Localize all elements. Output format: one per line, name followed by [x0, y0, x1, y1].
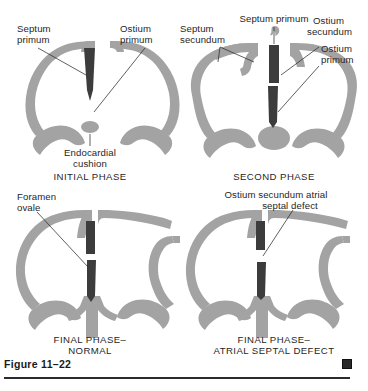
final-phase-defect-drawing: Ostium secundum atrial septal defect FIN… [180, 188, 368, 358]
panel-final-phase-atrial-septal-defect: Ostium secundum atrial septal defect FIN… [180, 188, 368, 358]
septum-primum-lower-shape [87, 260, 96, 302]
label-defect-line2: septal defect [262, 200, 318, 211]
caption-final-phase-defect-line1: FINAL PHASE– [238, 334, 311, 345]
caption-second-phase: SECOND PHASE [233, 171, 315, 182]
label-foramen-ovale-line2: ovale [17, 202, 40, 213]
footer-divider [4, 377, 350, 379]
atrial-roof-right [268, 210, 348, 229]
label-septum-primum-line2: primum [17, 34, 50, 45]
label-ostium-primum-line2: primum [120, 34, 153, 45]
initial-phase-drawing: Septum primum Ostium primum Endocardial … [0, 0, 184, 190]
atrial-wall-right [110, 41, 180, 136]
septal-perforation-flap [270, 26, 279, 36]
caption-initial-phase: INITIAL PHASE [53, 171, 126, 182]
caption-final-phase-normal-line1: FINAL PHASE– [54, 334, 127, 345]
atrial-wall-right [149, 236, 174, 309]
septum-secundum-shape [210, 43, 258, 67]
label-ostium-secundum-line2: secundum [307, 26, 352, 37]
figure-footer: Figure 11–22 [0, 356, 368, 391]
label-ostium-primum-line2: primum [321, 54, 354, 65]
septum-base-trunk [66, 296, 118, 338]
leader-ostium-primum [94, 48, 145, 112]
caption-final-phase-defect-line2: ATRIAL SEPTAL DEFECT [214, 345, 335, 356]
leader-ostium-secundum [281, 47, 319, 75]
atrial-wall-right [319, 236, 344, 309]
septum-primum-lower-shape [268, 86, 278, 128]
panel-final-phase-normal: Foramen ovale FINAL PHASE– NORMAL [0, 188, 184, 358]
septum-secundum-upper-shape [86, 221, 95, 254]
second-phase-drawing: Septum primum Septum secundum Ostium sec… [180, 0, 368, 190]
septum-primum-shape [269, 45, 279, 83]
end-of-figure-square-icon [342, 359, 352, 369]
figure-number: Figure 11–22 [4, 358, 71, 370]
label-endocardial-cushion-line2: cushion [73, 158, 107, 169]
figure-illustration: Septum primum Ostium primum Endocardial … [0, 0, 368, 391]
label-septum-primum-line1: Septum [17, 23, 51, 34]
septum-secundum-hook-left [240, 67, 251, 76]
septum-base-trunk [236, 296, 288, 338]
endocardial-cushion-shape [258, 126, 290, 150]
atrial-wall-left [186, 210, 254, 310]
label-foramen-ovale-line1: Foramen [17, 191, 56, 202]
caption-final-phase-normal-line2: NORMAL [68, 345, 112, 356]
endocardial-cushion-shape [81, 121, 99, 133]
septum-primum-lower-shape [257, 262, 266, 300]
atrial-roof-right [98, 210, 172, 229]
label-ostium-secundum-line1: Ostium [313, 15, 344, 26]
label-septum-primum: Septum primum [239, 13, 308, 24]
label-defect-line1: Ostium secundum atrial [225, 189, 328, 200]
septum-secundum-upper-shape [256, 221, 265, 250]
atrial-wall-left [16, 210, 84, 310]
label-endocardial-cushion-line1: Endocardial [64, 147, 116, 158]
label-septum-secundum-line2: secundum [180, 34, 225, 45]
panel-second-phase: Septum primum Septum secundum Ostium sec… [180, 0, 368, 190]
label-septum-secundum-line1: Septum [180, 23, 214, 34]
label-ostium-primum-line1: Ostium [120, 23, 151, 34]
label-ostium-primum-line1: Ostium [321, 43, 352, 54]
panel-initial-phase: Septum primum Ostium primum Endocardial … [0, 0, 184, 190]
final-phase-normal-drawing: Foramen ovale FINAL PHASE– NORMAL [0, 188, 184, 358]
